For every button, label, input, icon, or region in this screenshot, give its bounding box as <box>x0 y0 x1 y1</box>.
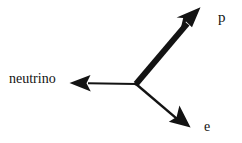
electron-vector <box>136 84 191 127</box>
neutrino-shaft <box>88 83 136 84</box>
electron-label: e <box>204 120 210 134</box>
electron-shaft <box>136 84 179 120</box>
neutrino-label: neutrino <box>9 72 56 86</box>
electron-arrowhead <box>169 106 191 128</box>
neutrino-arrowhead <box>70 75 91 92</box>
proton-vector <box>136 7 201 84</box>
proton-shaft <box>136 24 187 84</box>
neutrino-vector <box>70 75 137 92</box>
vertex-point <box>134 82 137 85</box>
momentum-vector-diagram: neutrino p e <box>0 0 242 143</box>
proton-label: p <box>218 10 226 25</box>
